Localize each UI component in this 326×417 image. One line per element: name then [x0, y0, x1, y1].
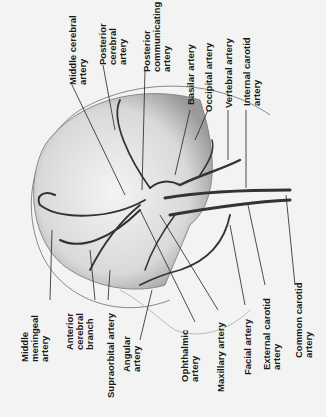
label-posterior-communicating-artery: Posteriorcommunicatingartery [142, 2, 172, 72]
label-occipital-artery: Occipital artery [204, 43, 214, 112]
label-line: artery [40, 315, 50, 362]
face-outline [120, 290, 250, 334]
label-line: artery [252, 37, 262, 106]
label-maxillary-artery: Maxillary artery [216, 322, 226, 392]
label-supraorbital-artery: Supraorbital artery [106, 313, 116, 398]
label-facial-artery: Facial artery [243, 319, 253, 375]
label-line: artery [132, 336, 142, 372]
label-line: Vertebral artery [224, 38, 234, 108]
label-angular-artery: Angularartery [122, 336, 142, 372]
label-common-carotid-artery: Common carotidartery [294, 283, 314, 358]
label-line: artery [304, 283, 314, 358]
label-line: artery [118, 23, 128, 65]
label-middle-cerebral-artery: Middle cerebralartery [68, 15, 88, 85]
anatomy-figure: Middle cerebralartery Posteriorcerebrala… [0, 0, 326, 417]
label-vertebral-artery: Vertebral artery [224, 38, 234, 108]
label-posterior-cerebral-artery: Posteriorcerebralartery [98, 23, 128, 65]
label-line: artery [162, 2, 172, 72]
label-line: Occipital artery [204, 43, 214, 112]
label-line: artery [190, 330, 200, 382]
label-line: Facial artery [243, 319, 253, 375]
label-line: Supraorbital artery [106, 313, 116, 398]
label-line: Maxillary artery [216, 322, 226, 392]
label-internal-carotid-artery: Internal carotidartery [242, 37, 262, 106]
label-middle-meningeal-artery: Middlemeningealartery [20, 315, 50, 362]
label-basilar-artery: Basilar artery [186, 44, 196, 105]
label-external-carotid-artery: External carotidartery [262, 298, 282, 370]
label-line: artery [78, 15, 88, 85]
label-anterior-cerebral-branch: Anteriorcerebralbranch [65, 313, 95, 350]
label-ophthalmic-artery: Ophthalmicartery [180, 330, 200, 382]
label-line: artery [272, 298, 282, 370]
label-line: branch [85, 313, 95, 350]
label-line: Basilar artery [186, 44, 196, 105]
